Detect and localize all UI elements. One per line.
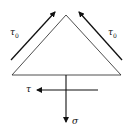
tau0-left-label: τ0 [10, 28, 19, 39]
tau0-right-label: τ0 [108, 28, 117, 39]
sigma-label: σ [72, 117, 78, 126]
diagram-graphics [0, 0, 133, 131]
tau-label: τ [26, 85, 31, 94]
triangle-element [12, 15, 121, 75]
stress-diagram: τ0 τ0 τ σ [0, 0, 133, 131]
